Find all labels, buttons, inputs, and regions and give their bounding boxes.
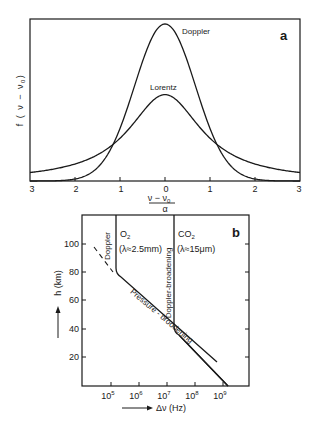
svg-text:3: 3 — [296, 184, 301, 194]
panel-b-y-axis-label: h (km) — [53, 270, 63, 338]
svg-text:h (km): h (km) — [53, 270, 63, 296]
svg-text:2: 2 — [252, 184, 257, 194]
svg-text:40: 40 — [69, 324, 79, 334]
panel-b-chart: 100 80 60 40 20 105 106 107 108 109 Δν (… — [53, 215, 249, 413]
panel-a-label: a — [280, 28, 288, 43]
svg-text:107: 107 — [157, 390, 171, 401]
lorentz-curve — [30, 95, 300, 173]
o2-label: O2 — [120, 229, 131, 240]
panel-b-x-tick-labels: 105 106 107 108 109 — [101, 390, 227, 401]
pressure-broadening-label: Pressure - broodening — [128, 287, 194, 345]
svg-text:108: 108 — [185, 390, 199, 401]
svg-text:Δν (Hz): Δν (Hz) — [156, 403, 186, 413]
panel-a-y-axis-label: f ( ν − ν0) — [15, 74, 26, 127]
o2-wavelength-label: (λ≈2.5mm) — [119, 244, 162, 254]
svg-text:20: 20 — [69, 352, 79, 362]
panel-a-chart: 3 2 1 0 1 2 3 ν − ν0 α f ( ν − ν0) Doppl… — [15, 19, 302, 214]
arrow-up-icon — [56, 306, 61, 313]
doppler-rotated-label: Doppler — [103, 232, 112, 260]
panel-a-frame — [30, 19, 300, 181]
svg-text:3: 3 — [29, 184, 34, 194]
co2-wavelength-label: (λ≈15μm) — [177, 244, 215, 254]
svg-text:α: α — [162, 204, 167, 214]
svg-text:Doppler: Doppler — [103, 232, 112, 260]
doppler-label: Doppler — [182, 27, 210, 36]
svg-text:f ( ν − ν0): f ( ν − ν0) — [15, 74, 26, 127]
panel-b-label: b — [232, 225, 240, 240]
panel-b-x-ticks — [111, 382, 223, 386]
svg-text:1: 1 — [207, 184, 212, 194]
figure: 3 2 1 0 1 2 3 ν − ν0 α f ( ν − ν0) Doppl… — [0, 0, 316, 432]
co2-label: CO2 — [178, 229, 196, 240]
lorentz-label: Lorentz — [150, 83, 177, 92]
panel-b-x-axis-label: Δν (Hz) — [122, 403, 186, 413]
svg-text:Pressure - broodening: Pressure - broodening — [128, 287, 194, 345]
svg-text:1: 1 — [118, 184, 123, 194]
panel-b-y-tick-labels: 100 80 60 40 20 — [64, 239, 79, 362]
arrow-right-icon — [147, 406, 153, 411]
svg-text:Doppler-broadening: Doppler-broadening — [164, 248, 173, 319]
doppler-curve — [30, 24, 300, 181]
svg-text:2: 2 — [73, 184, 78, 194]
svg-text:109: 109 — [213, 390, 227, 401]
svg-text:60: 60 — [69, 295, 79, 305]
co2-curve — [174, 215, 228, 386]
svg-text:80: 80 — [69, 267, 79, 277]
svg-text:100: 100 — [64, 239, 79, 249]
panel-a-x-axis-label: ν − ν0 α — [148, 193, 175, 214]
svg-text:ν − ν0: ν − ν0 — [148, 193, 171, 204]
doppler-broadening-label: Doppler-broadening — [164, 248, 173, 319]
svg-text:106: 106 — [129, 390, 143, 401]
panel-a-x-ticks — [75, 177, 255, 181]
svg-text:105: 105 — [101, 390, 115, 401]
